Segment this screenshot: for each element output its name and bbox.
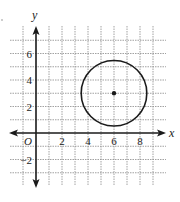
y-tick-label: 6: [27, 48, 33, 60]
circle-center-point: [112, 91, 116, 95]
x-axis-label: x: [168, 126, 175, 140]
stray-dot: [1, 19, 2, 20]
axis-labels: y x O: [24, 8, 175, 147]
y-tick-label: 4: [27, 74, 33, 86]
grid-lines: [10, 26, 166, 185]
x-tick-label: 8: [137, 135, 143, 147]
x-tick-label: 2: [59, 135, 65, 147]
x-tick-label: 6: [111, 135, 117, 147]
y-axis-label: y: [31, 8, 38, 22]
y-tick-label: 2: [27, 101, 33, 113]
x-tick-label: 4: [85, 135, 91, 147]
axes: [9, 26, 166, 188]
coordinate-plane-figure: y x O 2468246−2: [0, 0, 180, 202]
origin-label: O: [24, 135, 32, 147]
y-tick-label: −2: [20, 154, 32, 166]
